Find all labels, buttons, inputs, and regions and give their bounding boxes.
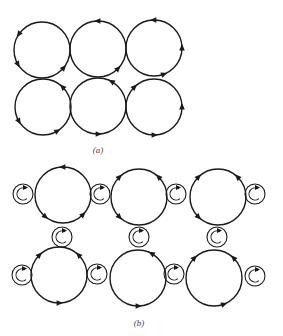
small-vortex-circle [129,227,149,247]
arrowhead-icon [96,131,102,137]
small-vortex-circle [90,184,110,204]
arrowhead-icon [176,185,181,190]
arrowhead-icon [174,265,179,270]
arrowhead-icon [179,103,185,109]
arrowhead-icon [152,132,158,138]
arrowhead-icon [139,228,144,233]
arrowhead-icon [62,228,67,233]
vortex-circle [70,18,126,77]
small-vortex-circle [245,184,265,204]
vortex-circle [110,250,166,309]
vortex-circle [126,17,185,78]
vortex-circle [111,169,167,225]
vortex-circle [190,169,246,225]
vortex-circle [186,250,242,308]
arrowhead-icon [179,44,185,50]
vortex-circle [35,164,91,223]
small-vortex-circle [166,184,186,204]
panel-b-vortex-grid [12,164,265,309]
arrowhead-icon [97,265,102,270]
vortex-circle [14,22,70,78]
arrowhead-icon [255,185,260,190]
arrowhead-icon [23,185,28,190]
arrowhead-icon [57,300,63,306]
arrowhead-icon [160,73,167,78]
small-vortex-circle [207,227,227,247]
small-vortex-circle [245,266,265,286]
arrowhead-icon [255,267,260,272]
arrowhead-icon [150,17,156,23]
arrowhead-icon [59,164,65,170]
arrowhead-icon [94,18,100,24]
vortex-circle [31,247,87,306]
arrowhead-icon [136,303,142,309]
small-vortex-circle [13,184,33,204]
arrowhead-icon [22,266,27,271]
arrowhead-icon [220,303,227,308]
small-vortex-circle [164,264,184,284]
small-vortex-circle [52,227,72,247]
small-vortex-circle [87,264,107,284]
panel-b-label: (b) [134,318,145,328]
vortex-circle [15,79,71,135]
vortex-circle [126,79,185,138]
arrowhead-icon [217,228,222,233]
vortex-circle [70,78,126,137]
arrowhead-icon [100,185,105,190]
small-vortex-circle [12,265,32,285]
panel-a-label: (a) [93,145,104,155]
vortex-diagram: (a) (b) [0,0,283,336]
panel-a-vortex-grid [14,17,185,138]
